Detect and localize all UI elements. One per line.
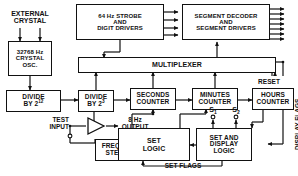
label-set-flags: SET FLAGS xyxy=(150,163,216,170)
minutes-line-2: COUNTER xyxy=(199,99,232,106)
box-divide-by-2-3: DIVIDE BY 23 xyxy=(78,90,114,112)
setlogic-line-1: SET xyxy=(147,137,161,144)
s2-subscript: 2 xyxy=(237,109,240,115)
label-test-input: TEST INPUT xyxy=(33,117,69,131)
label-s1-terminal: S1 xyxy=(205,106,221,113)
seconds-line-2: COUNTER xyxy=(137,99,170,106)
box-multiplexer: MULTIPLEXER xyxy=(78,57,276,73)
label-display-flags: DISPLAY FLAGS xyxy=(294,99,298,150)
multiplexer-label: MULTIPLEXER xyxy=(152,61,202,68)
buffer-amplifier-symbol xyxy=(88,118,104,134)
box-set-and-display-logic: SET AND DISPLAY LOGIC xyxy=(196,128,252,161)
setlogic-line-2: LOGIC xyxy=(143,145,166,152)
div12-exponent: 12 xyxy=(38,99,43,104)
setflags-text: SET FLAGS xyxy=(150,163,216,170)
div3-exponent: 3 xyxy=(102,99,105,104)
s1-subscript: 1 xyxy=(214,109,217,115)
box-segment-decoder-drivers: SEGMENT DECODER AND SEGMENT DRIVERS xyxy=(182,4,270,40)
osc-line-3: OSC. xyxy=(22,62,37,68)
extcrystal-line-2: CRYSTAL xyxy=(3,17,57,24)
label-s2-terminal: S2 xyxy=(228,106,244,113)
testinput-line-2: INPUT xyxy=(33,124,69,131)
box-set-logic: SET LOGIC xyxy=(118,128,190,161)
div12-line-2: BY 212 xyxy=(23,101,43,108)
label-8hz-output: 8 Hz OUTPUT xyxy=(112,117,158,131)
output8hz-line-2: OUTPUT xyxy=(112,124,158,131)
segdec-line-3: SEGMENT DRIVERS xyxy=(196,25,256,31)
label-external-crystal: EXTERNAL CRYSTAL xyxy=(3,10,57,25)
box-seconds-counter: SECONDS COUNTER xyxy=(130,88,176,110)
box-64hz-strobe-digit-drivers: 64 Hz STROBE AND DIGIT DRIVERS xyxy=(76,4,164,40)
block-diagram: 64 Hz STROBE AND DIGIT DRIVERS SEGMENT D… xyxy=(0,0,298,176)
div3-line-2: BY 23 xyxy=(87,101,104,108)
extcrystal-line-1: EXTERNAL xyxy=(3,10,57,17)
displayflags-text: DISPLAY FLAGS xyxy=(294,99,298,150)
box-divide-by-2-12: DIVIDE BY 212 xyxy=(6,90,61,112)
reset-label: RESET xyxy=(258,79,280,86)
setdisp-line-3: LOGIC xyxy=(213,148,234,155)
box-reset: RESET xyxy=(254,76,284,88)
box-crystal-oscillator: 32768 Hz CRYSTAL OSC. xyxy=(8,41,52,76)
box-hours-counter: HOURS COUNTER xyxy=(252,88,294,110)
hours-line-2: COUNTER xyxy=(257,99,290,106)
strobe-line-3: DIGIT DRIVERS xyxy=(97,25,143,31)
